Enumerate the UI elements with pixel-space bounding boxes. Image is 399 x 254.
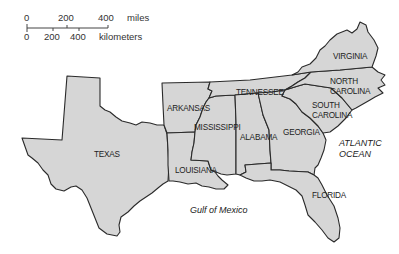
scale-km-200: 200 bbox=[44, 31, 60, 42]
label-georgia: GEORGIA bbox=[283, 128, 321, 137]
scale-km-0: 0 bbox=[24, 31, 29, 42]
label-atlantic-line1: ATLANTIC bbox=[338, 138, 382, 148]
scale-km-unit: kilometers bbox=[99, 31, 143, 42]
label-south-carolina-line2: CAROLINA bbox=[312, 111, 353, 120]
label-atlantic-line2: OCEAN bbox=[339, 149, 372, 159]
scale-bar: 0 200 400 miles 0 200 400 kilometers bbox=[24, 12, 149, 42]
label-mississippi: MISSISSIPPI bbox=[194, 123, 241, 132]
state-florida[interactable] bbox=[240, 163, 340, 242]
label-arkansas: ARKANSAS bbox=[167, 104, 211, 113]
label-texas: TEXAS bbox=[94, 150, 121, 159]
label-louisiana: LOUISIANA bbox=[175, 166, 218, 175]
scale-miles-400: 400 bbox=[98, 12, 114, 23]
label-north-carolina-line1: NORTH bbox=[330, 77, 358, 86]
label-alabama: ALABAMA bbox=[240, 133, 278, 142]
scale-miles-0: 0 bbox=[24, 12, 29, 23]
label-florida: FLORIDA bbox=[312, 191, 347, 200]
state-virginia[interactable] bbox=[292, 22, 378, 75]
scale-miles-unit: miles bbox=[127, 12, 149, 23]
label-north-carolina-line2: CAROLINA bbox=[330, 87, 371, 96]
map-canvas: 0 200 400 miles 0 200 400 kilometers bbox=[0, 0, 399, 254]
label-south-carolina-line1: SOUTH bbox=[312, 101, 340, 110]
label-virginia: VIRGINIA bbox=[333, 52, 368, 61]
scale-miles-200: 200 bbox=[58, 12, 74, 23]
scale-km-400: 400 bbox=[70, 31, 86, 42]
label-tennessee: TENNESSEE bbox=[236, 88, 285, 97]
label-gulf-of-mexico: Gulf of Mexico bbox=[190, 205, 248, 215]
